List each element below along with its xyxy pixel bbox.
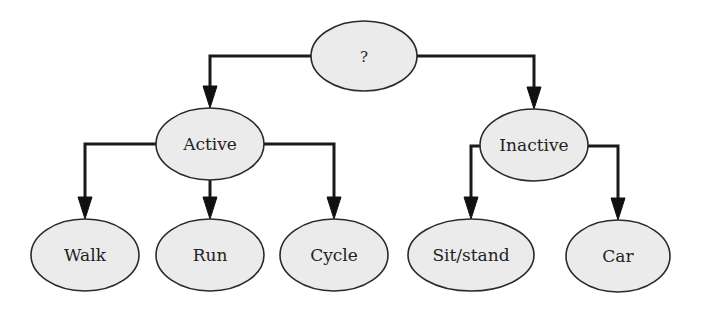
- node-active-label: Active: [182, 134, 237, 154]
- node-inactive: Inactive: [480, 109, 588, 181]
- node-car-label: Car: [602, 246, 634, 266]
- edge-active-to-walk: [78, 144, 156, 219]
- node-root: ?: [311, 21, 417, 91]
- arrowhead-icon: [464, 197, 478, 219]
- arrowhead-icon: [611, 198, 625, 220]
- node-walk: Walk: [31, 219, 139, 291]
- arrowhead-icon: [527, 87, 541, 109]
- node-sitstand-label: Sit/stand: [432, 245, 509, 265]
- arrowhead-icon: [203, 86, 217, 108]
- edge-active-to-run: [203, 180, 217, 219]
- node-car: Car: [566, 220, 670, 292]
- activity-tree-diagram: ? Active Inactive Walk Run Cycle Sit/sta…: [0, 0, 704, 312]
- node-root-label: ?: [360, 48, 368, 66]
- node-walk-label: Walk: [64, 245, 107, 265]
- edge-inactive-to-sitstand: [464, 146, 481, 219]
- edge-root-to-inactive: [417, 56, 541, 109]
- node-run: Run: [156, 219, 264, 291]
- edge-root-to-active: [203, 56, 311, 108]
- arrowhead-icon: [78, 197, 92, 219]
- edge-active-to-cycle: [264, 144, 341, 219]
- nodes: ? Active Inactive Walk Run Cycle Sit/sta…: [31, 21, 670, 292]
- arrowhead-icon: [327, 197, 341, 219]
- node-cycle-label: Cycle: [310, 245, 358, 265]
- arrowhead-icon: [203, 197, 217, 219]
- node-run-label: Run: [193, 245, 228, 265]
- node-sitstand: Sit/stand: [408, 219, 534, 291]
- edge-inactive-to-car: [587, 146, 625, 220]
- node-inactive-label: Inactive: [499, 135, 568, 155]
- node-cycle: Cycle: [280, 219, 388, 291]
- node-active: Active: [156, 108, 264, 180]
